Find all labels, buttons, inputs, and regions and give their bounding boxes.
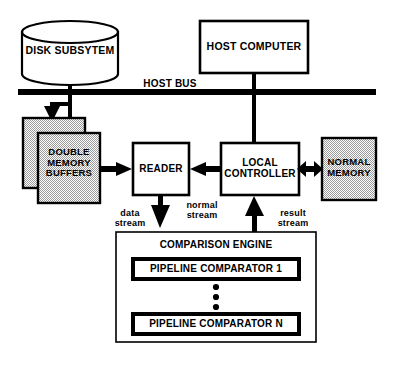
double-memory-buffers-front-shape: [38, 133, 100, 203]
disk-subsystem-shape: [22, 21, 118, 85]
arrow-controller-to-reader: [190, 162, 222, 176]
arrow-data-stream: [151, 195, 170, 228]
arrow-buffers-to-reader: [100, 162, 132, 176]
normal-memory-shape: [322, 138, 376, 200]
pipeline-comparator-n-shape: [133, 314, 299, 334]
arrow-controller-normal-memory: [297, 161, 323, 177]
local-controller-shape: [221, 143, 299, 195]
arrow-result-stream: [245, 196, 264, 234]
host-computer-shape: [200, 21, 308, 73]
diagram-graphics: [0, 0, 394, 365]
diagram-canvas: DISK SUBSYTEM HOST COMPUTER HOST BUS DOU…: [0, 0, 394, 365]
reader-shape: [133, 143, 189, 195]
ellipsis-dots: [213, 284, 219, 310]
pipeline-comparator-1-shape: [133, 259, 299, 279]
